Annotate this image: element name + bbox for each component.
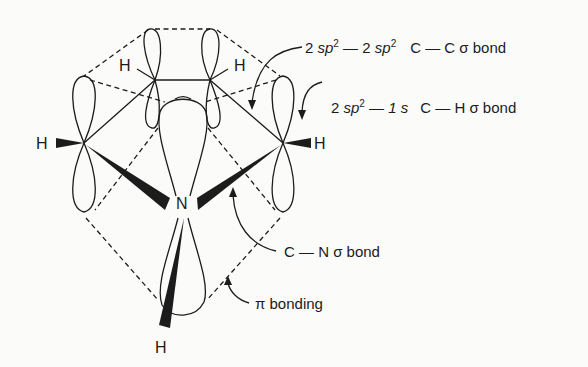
label-ch-sigma-bond: 2 sp2 — 1 sC — H σ bond (331, 100, 516, 115)
p-orbital-nitrogen-upper (159, 99, 207, 196)
wedge-left-cn (86, 145, 170, 210)
atom-h-right: H (314, 136, 326, 152)
wedge-right-cn (197, 145, 281, 210)
wedge-left-h (56, 138, 84, 148)
atom-h-top-right: H (234, 58, 246, 74)
wedge-right-h (283, 138, 311, 148)
label-pi-bonding: π bonding (255, 296, 323, 311)
pointer-ch-bond (302, 82, 322, 112)
label-cc-sigma-bond: 2 sp2 — 2 sp2C — C σ bond (305, 40, 506, 55)
p-orbital-right-lower (272, 143, 294, 212)
p-orbital-left-lower (73, 143, 96, 212)
p-orbital-left-upper (73, 76, 96, 143)
atom-h-top-left: H (119, 58, 131, 74)
atom-h-bottom: H (155, 340, 167, 356)
p-orbital-top-right-upper (202, 29, 219, 80)
pointer-cc-bond (252, 47, 302, 102)
pointer-pi-bonding (228, 283, 249, 303)
label-cn-sigma-bond: C — N σ bond (284, 244, 380, 259)
p-orbital-right-upper (272, 76, 294, 143)
p-orbital-top-left-upper (144, 29, 161, 80)
atom-nitrogen: N (176, 196, 188, 212)
atom-h-left: H (36, 136, 48, 152)
